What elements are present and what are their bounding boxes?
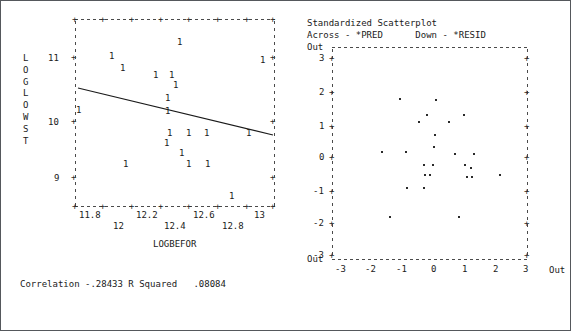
right-plot-point <box>389 216 391 218</box>
right-plot-point <box>434 134 436 136</box>
right-plot-x-tick-label: 2 <box>493 265 498 274</box>
right-plot-point <box>424 174 426 176</box>
right-plot-point <box>426 114 428 116</box>
right-plot-y-tick-mark-right: + <box>524 153 529 162</box>
standardized-plot-title: Standardized Scatterplot <box>307 18 437 28</box>
right-plot-x-tick-label: -1 <box>396 265 407 274</box>
right-plot-out-label-right: Out <box>549 266 565 275</box>
right-plot-x-tick-label: 0 <box>431 265 436 274</box>
right-plot-x-tick-label: 1 <box>462 265 467 274</box>
right-plot-top-axis <box>332 47 528 48</box>
right-plot-y-tick-mark: + <box>329 153 334 162</box>
correlation-line: Correlation -.28433 R Squared .08084 <box>20 279 226 289</box>
right-plot-bottom-axis <box>332 259 528 260</box>
left-plot-x-tick-label: 12.2 <box>136 210 158 220</box>
stats-spacer <box>20 309 226 316</box>
left-plot-x-tick-label: 12 <box>113 221 124 231</box>
right-plot-point <box>405 151 407 153</box>
right-plot-point <box>471 176 473 178</box>
left-plot-x-tick-label: 12.8 <box>222 221 244 231</box>
right-plot-y-tick-label: 3 <box>319 54 324 63</box>
right-plot-point <box>458 216 460 218</box>
right-plot-y-tick-mark-right: + <box>524 251 529 260</box>
right-plot-y-tick-mark: + <box>329 219 334 228</box>
right-plot-y-tick-mark: + <box>329 88 334 97</box>
right-plot-y-tick-mark-right: + <box>524 122 529 131</box>
right-plot-y-tick-label: -3 <box>313 251 324 260</box>
right-plot-y-tick-mark-right: + <box>524 88 529 97</box>
right-plot-point <box>499 174 501 176</box>
right-plot-y-tick-mark: + <box>329 54 334 63</box>
right-plot-point <box>429 174 431 176</box>
right-plot-y-tick-mark-right: + <box>524 219 529 228</box>
right-plot-point <box>464 164 466 166</box>
left-plot-x-axis-title: LOGBEFOR <box>153 239 196 249</box>
right-plot-point <box>432 164 434 166</box>
right-plot-point <box>423 164 425 166</box>
right-plot-out-label-top: Out <box>307 43 323 52</box>
right-plot-point <box>454 153 456 155</box>
right-plot-point <box>399 98 401 100</box>
left-plot-x-tick-label: 13 <box>254 210 265 220</box>
left-plot-x-tick-label: 11.8 <box>79 210 101 220</box>
right-plot-point <box>423 187 425 189</box>
regression-scatterplot-panel: L O G L O W S T 11 10 9 + + + + + + + + … <box>1 1 293 331</box>
right-plot-x-tick-label: -2 <box>365 265 376 274</box>
right-plot-x-tick-label: 3 <box>523 265 528 274</box>
right-plot-y-tick-label: -1 <box>313 187 324 196</box>
right-plot-point <box>418 121 420 123</box>
right-plot-point <box>435 99 437 101</box>
right-plot-point <box>470 167 472 169</box>
standardized-plot-axis-note: Across - *PRED Down - *RESID <box>307 30 486 40</box>
right-plot-point <box>466 176 468 178</box>
right-plot-y-tick-mark: + <box>329 187 334 196</box>
right-plot-point <box>381 151 383 153</box>
right-plot-y-tick-mark-right: + <box>524 54 529 63</box>
standardized-scatterplot-panel: Standardized Scatterplot Across - *PRED … <box>299 1 571 331</box>
right-plot-x-tick-label: -3 <box>335 265 346 274</box>
right-plot-y-tick-label: -2 <box>313 219 324 228</box>
right-plot-point <box>473 153 475 155</box>
right-plot-y-tick-mark: + <box>329 251 334 260</box>
right-plot-y-tick-mark: + <box>329 122 334 131</box>
right-plot-y-tick-label: 1 <box>319 122 324 131</box>
right-plot-y-tick-mark-right: + <box>524 187 529 196</box>
right-plot-point <box>406 187 408 189</box>
right-plot-y-tick-label: 2 <box>319 88 324 97</box>
spss-output-window: L O G L O W S T 11 10 9 + + + + + + + + … <box>0 0 571 331</box>
left-plot-x-tick-label: 12.4 <box>164 221 186 231</box>
right-plot-point <box>433 146 435 148</box>
left-plot-x-tick-label: 12.6 <box>193 210 215 220</box>
right-plot-point <box>463 114 465 116</box>
right-plot-y-tick-label: 0 <box>319 153 324 162</box>
right-plot-point <box>448 121 450 123</box>
regression-statistics-block: Correlation -.28433 R Squared .08084 Var… <box>20 259 226 331</box>
